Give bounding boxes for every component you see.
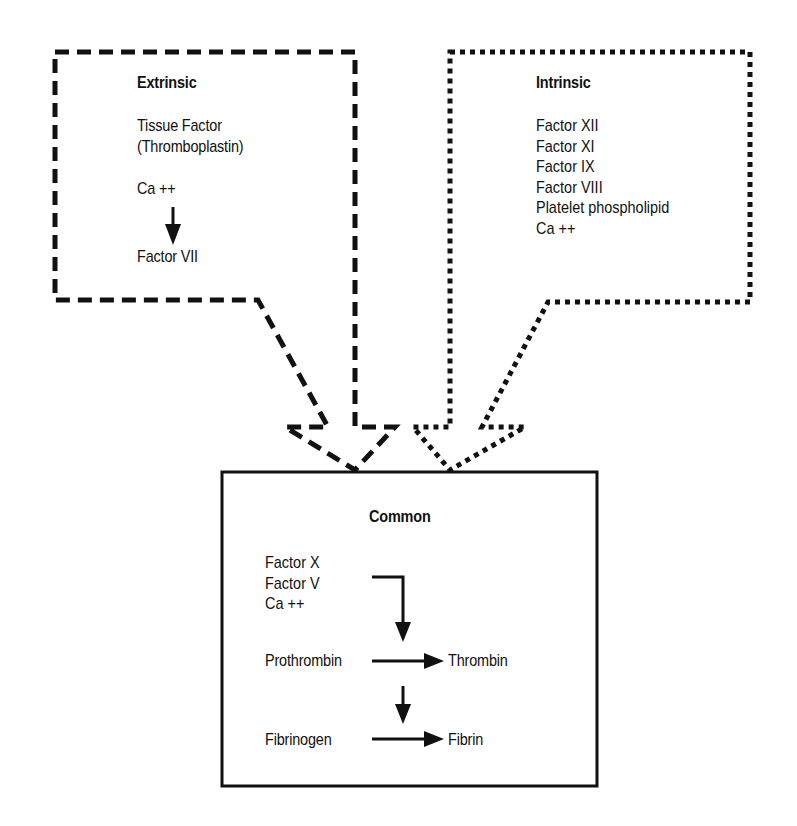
intrinsic-item: Factor XII [536, 116, 669, 137]
extrinsic-item: Factor VII [137, 247, 198, 267]
cofactor-item: Factor X [265, 553, 320, 574]
cofactor-item: Ca ++ [265, 594, 320, 615]
common-cofactor-list: Factor X Factor V Ca ++ [265, 553, 320, 615]
thrombin-down-arrow [395, 686, 411, 724]
fibrinogen-to-fibrin-arrow [372, 731, 444, 747]
extrinsic-item: Tissue Factor [137, 116, 222, 136]
cofactor-item: Factor V [265, 574, 320, 595]
intrinsic-pathway-shape [413, 52, 750, 470]
extrinsic-title: Extrinsic [137, 73, 197, 93]
intrinsic-item: Ca ++ [536, 219, 669, 240]
diagram-canvas [0, 0, 797, 826]
prothrombin-label: Prothrombin [265, 651, 342, 671]
extrinsic-pathway-shape [55, 52, 395, 470]
fibrinogen-label: Fibrinogen [265, 730, 332, 750]
common-title: Common [369, 507, 431, 527]
intrinsic-item: Factor IX [536, 157, 669, 178]
fibrin-label: Fibrin [448, 730, 483, 750]
extrinsic-down-arrow [165, 207, 181, 245]
prothrombin-to-thrombin-arrow [372, 653, 444, 669]
cofactor-bent-arrow [372, 577, 411, 642]
extrinsic-item: (Thromboplastin) [137, 137, 244, 157]
intrinsic-item: Platelet phospholipid [536, 198, 669, 219]
intrinsic-item: Factor VIII [536, 178, 669, 199]
intrinsic-factor-list: Factor XII Factor XI Factor IX Factor VI… [536, 116, 669, 239]
intrinsic-item: Factor XI [536, 137, 669, 158]
extrinsic-item: Ca ++ [137, 179, 176, 199]
intrinsic-title: Intrinsic [536, 73, 591, 93]
thrombin-label: Thrombin [448, 651, 508, 671]
